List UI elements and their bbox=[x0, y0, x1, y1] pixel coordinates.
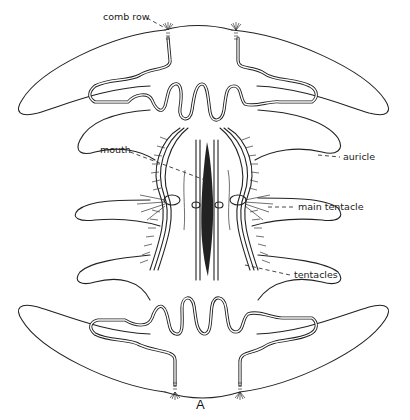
label-tentacles: tentacles bbox=[294, 270, 338, 280]
upper-canals bbox=[90, 38, 317, 120]
label-main-tentacle: main tentacle bbox=[298, 202, 364, 212]
label-comb-row: comb row bbox=[103, 12, 150, 22]
pharynx bbox=[201, 142, 213, 276]
central-body bbox=[150, 128, 258, 280]
lower-canals bbox=[91, 298, 317, 385]
lower-left-lobe bbox=[19, 305, 165, 392]
ctenophore-diagram: comb row mouth auricle main tentacle ten… bbox=[0, 0, 410, 420]
middle-left-lobes bbox=[75, 110, 160, 300]
top-margin bbox=[165, 26, 232, 31]
label-auricle: auricle bbox=[343, 152, 375, 162]
panel-letter: A bbox=[196, 397, 205, 412]
label-mouth: mouth bbox=[100, 145, 131, 155]
